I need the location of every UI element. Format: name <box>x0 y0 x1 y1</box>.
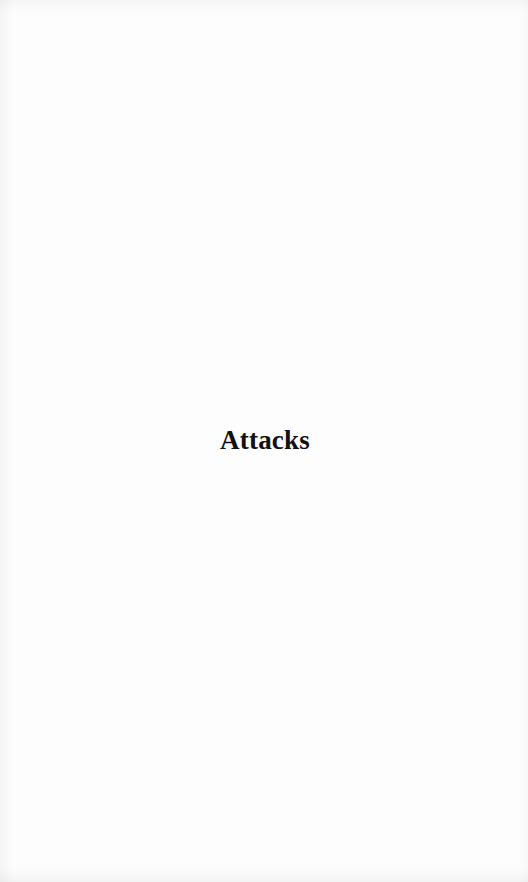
document-page: Attacks <box>0 0 528 882</box>
section-title: Attacks <box>0 423 528 457</box>
